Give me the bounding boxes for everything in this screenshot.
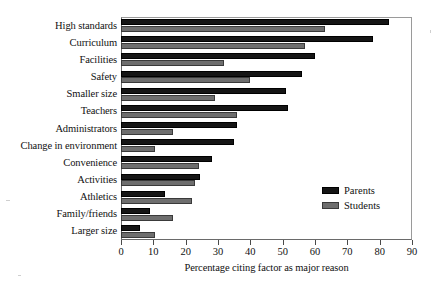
bar-parents xyxy=(121,208,150,214)
x-axis-tick xyxy=(250,240,251,245)
category-label: Athletics xyxy=(0,191,117,202)
bar-parents xyxy=(121,105,288,111)
legend-item-students: Students xyxy=(322,199,406,212)
bar-parents xyxy=(121,36,373,42)
x-axis-tick xyxy=(412,240,413,245)
x-axis-tick-label: 70 xyxy=(332,246,362,258)
bar-group xyxy=(121,154,412,171)
x-axis-tick xyxy=(153,240,154,245)
bar-parents xyxy=(121,225,140,231)
bar-chart: High standardsCurriculumFacilitiesSafety… xyxy=(0,0,441,288)
bar-parents xyxy=(121,191,165,197)
x-axis-tick-label: 50 xyxy=(268,246,298,258)
bar-group xyxy=(121,34,412,51)
bar-group xyxy=(121,223,412,240)
category-label: Larger size xyxy=(0,225,117,236)
x-axis-title: Percentage citing factor as major reason xyxy=(121,262,412,273)
x-axis-tick xyxy=(121,240,122,245)
x-axis-tick-label: 30 xyxy=(203,246,233,258)
bar-parents xyxy=(121,53,315,59)
x-axis-tick-labels: 0102030405060708090 xyxy=(0,246,441,260)
bar-students xyxy=(121,215,173,221)
category-axis-labels: High standardsCurriculumFacilitiesSafety… xyxy=(0,17,117,240)
x-axis-tick xyxy=(283,240,284,245)
category-label: Smaller size xyxy=(0,88,117,99)
bar-students xyxy=(121,163,199,169)
x-axis-tick-label: 80 xyxy=(365,246,395,258)
bar-students xyxy=(121,146,155,152)
bar-parents xyxy=(121,174,200,180)
legend-swatch-parents-icon xyxy=(322,187,339,194)
legend-label-parents: Parents xyxy=(344,185,375,196)
x-axis-tick-label: 60 xyxy=(300,246,330,258)
bar-students xyxy=(121,112,237,118)
bar-group xyxy=(121,86,412,103)
legend-swatch-students-icon xyxy=(322,202,339,209)
category-label: Curriculum xyxy=(0,37,117,48)
legend-item-parents: Parents xyxy=(322,184,406,197)
x-axis-tick xyxy=(380,240,381,245)
bar-parents xyxy=(121,88,286,94)
x-axis-tick-label: 10 xyxy=(138,246,168,258)
scan-speckle xyxy=(6,200,10,201)
bar-group xyxy=(121,68,412,85)
x-axis-tick-label: 20 xyxy=(171,246,201,258)
category-label: Activities xyxy=(0,174,117,185)
x-axis-tick xyxy=(218,240,219,245)
bar-group xyxy=(121,103,412,120)
bar-parents xyxy=(121,139,234,145)
x-axis-tick-label: 40 xyxy=(235,246,265,258)
scan-speckle xyxy=(18,275,21,276)
category-label: Change in environment xyxy=(0,140,117,151)
category-label: Facilities xyxy=(0,54,117,65)
bar-students xyxy=(121,129,173,135)
legend-label-students: Students xyxy=(344,200,380,211)
bar-parents xyxy=(121,71,302,77)
bar-group xyxy=(121,51,412,68)
bar-students xyxy=(121,26,325,32)
x-axis-tick xyxy=(315,240,316,245)
bar-parents xyxy=(121,122,237,128)
x-axis-tick-label: 90 xyxy=(397,246,427,258)
category-label: Convenience xyxy=(0,157,117,168)
x-axis-tick xyxy=(186,240,187,245)
bar-parents xyxy=(121,156,212,162)
category-label: Teachers xyxy=(0,105,117,116)
bar-group xyxy=(121,137,412,154)
bar-students xyxy=(121,95,215,101)
bar-students xyxy=(121,77,250,83)
scan-speckle xyxy=(430,30,431,33)
x-axis-tick xyxy=(347,240,348,245)
category-label: High standards xyxy=(0,20,117,31)
category-label: Safety xyxy=(0,71,117,82)
bar-parents xyxy=(121,19,389,25)
chart-legend: Parents Students xyxy=(322,184,406,214)
x-axis-tick-label: 0 xyxy=(106,246,136,258)
bar-students xyxy=(121,180,195,186)
category-label: Administrators xyxy=(0,123,117,134)
category-label: Family/friends xyxy=(0,208,117,219)
bar-students xyxy=(121,198,192,204)
bar-group xyxy=(121,17,412,34)
bar-students xyxy=(121,232,155,238)
bar-group xyxy=(121,120,412,137)
bar-students xyxy=(121,60,224,66)
bar-students xyxy=(121,43,305,49)
